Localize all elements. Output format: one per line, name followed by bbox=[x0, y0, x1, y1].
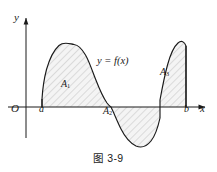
area-label-a3-subscript: 3 bbox=[166, 70, 169, 77]
function-graph bbox=[0, 0, 217, 172]
y-axis-label: y bbox=[14, 12, 19, 23]
y-axis-arrowhead bbox=[24, 18, 29, 25]
x-axis-label: x bbox=[200, 103, 205, 114]
area-label-a1-subscript: 1 bbox=[67, 82, 70, 89]
area-label-a3: A3 bbox=[160, 67, 169, 77]
figure-container: y x O a b y = f(x) A1 A2 A3 图 3-9 bbox=[0, 0, 217, 172]
origin-label: O bbox=[11, 103, 19, 114]
figure-caption: 图 3-9 bbox=[0, 150, 217, 165]
x-tick-label-a: a bbox=[39, 104, 44, 114]
area-label-a2-subscript: 2 bbox=[109, 109, 112, 116]
area-label-a2: A2 bbox=[103, 106, 112, 116]
x-tick-label-b: b bbox=[184, 104, 189, 114]
function-equation-label: y = f(x) bbox=[97, 56, 129, 67]
area-label-a1: A1 bbox=[61, 79, 70, 89]
hatched-area-a1 bbox=[42, 43, 111, 107]
hatched-area-a2 bbox=[111, 107, 160, 147]
